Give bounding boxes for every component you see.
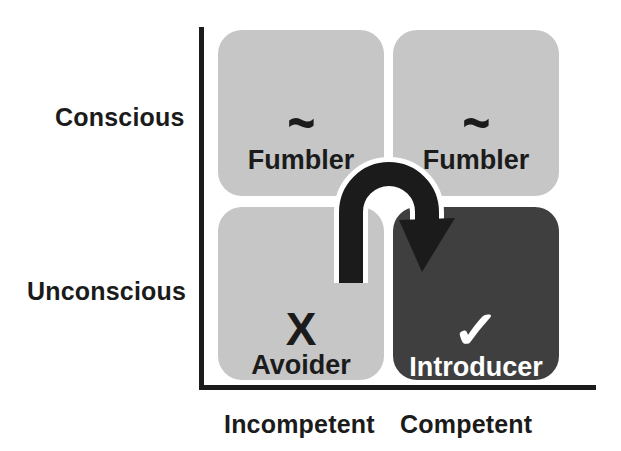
quadrant-conscious-incompetent[interactable]: ~ Fumbler <box>218 30 384 196</box>
x-mark-icon: X <box>286 306 317 352</box>
quadrant-unconscious-competent[interactable]: ✓ Introducer <box>393 207 559 380</box>
y-axis-label-conscious: Conscious <box>55 103 185 132</box>
x-axis-label-incompetent: Incompetent <box>224 410 375 439</box>
y-axis-label-unconscious: Unconscious <box>27 277 186 306</box>
x-axis-line <box>199 385 596 390</box>
x-axis-label-competent: Competent <box>400 410 532 439</box>
tilde-icon: ~ <box>462 90 490 152</box>
quadrant-unconscious-incompetent[interactable]: X Avoider <box>218 207 384 380</box>
tilde-icon: ~ <box>287 90 315 152</box>
check-mark-icon: ✓ <box>452 304 500 356</box>
quadrant-label-avoider: Avoider <box>251 352 351 379</box>
diagram-canvas: Conscious Unconscious Incompetent Compet… <box>0 0 621 451</box>
y-axis-line <box>199 27 204 390</box>
quadrant-conscious-competent[interactable]: ~ Fumbler <box>393 30 559 196</box>
